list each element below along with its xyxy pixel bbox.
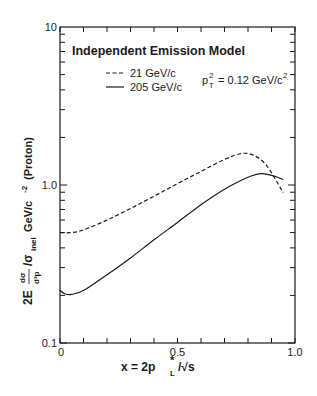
y-tick-label: 1.0 bbox=[42, 179, 57, 191]
chart-title: Independent Emission Model bbox=[72, 44, 245, 58]
curves bbox=[60, 153, 283, 294]
y-tick-label: 10 bbox=[45, 21, 57, 33]
y-tick-label: 0.1 bbox=[42, 337, 57, 349]
svg-text:T: T bbox=[209, 81, 214, 90]
svg-text:2: 2 bbox=[209, 71, 214, 80]
svg-text:GeV/c: GeV/c bbox=[22, 201, 34, 235]
svg-text:p: p bbox=[202, 74, 208, 86]
x-tick-label: 1.0 bbox=[287, 346, 302, 358]
svg-text:= 0.12 GeV/c: = 0.12 GeV/c bbox=[215, 74, 283, 86]
curve-21-gev-c bbox=[60, 153, 283, 233]
legend: 21 GeV/c 205 GeV/c bbox=[106, 67, 182, 93]
svg-text:/√s: /√s bbox=[178, 360, 195, 374]
svg-text:*: * bbox=[170, 354, 175, 366]
curve-205-gev-c bbox=[60, 174, 283, 295]
y-axis-label: 2E dσ d³p /σ inel GeV/c -2 (Proton) bbox=[18, 137, 41, 305]
svg-text:/σ: /σ bbox=[21, 254, 35, 266]
svg-text:inel: inel bbox=[29, 237, 38, 251]
svg-text:-2: -2 bbox=[20, 185, 29, 193]
x-tick-label: 0 bbox=[58, 346, 64, 358]
svg-text:L: L bbox=[170, 369, 175, 378]
pt-annotation: p 2 T = 0.12 GeV/c 2 bbox=[202, 71, 288, 90]
svg-text:(Proton): (Proton) bbox=[22, 137, 34, 183]
svg-text:2: 2 bbox=[283, 71, 288, 80]
svg-text:x = 2p: x = 2p bbox=[121, 360, 155, 374]
svg-text:dσ: dσ bbox=[18, 272, 27, 283]
svg-text:d³p: d³p bbox=[32, 271, 41, 284]
svg-text:2E: 2E bbox=[21, 290, 35, 305]
legend-label-205: 205 GeV/c bbox=[130, 81, 182, 93]
legend-label-21: 21 GeV/c bbox=[130, 67, 176, 79]
chart: 00.51.00.11.010 Independent Emission Mod… bbox=[0, 0, 317, 396]
